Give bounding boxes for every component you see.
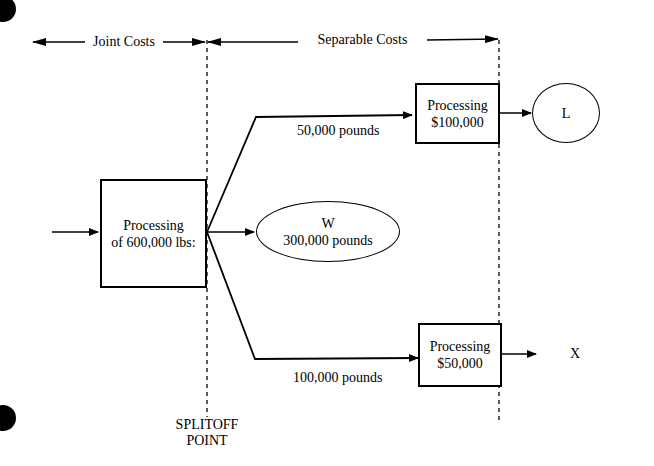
product-x-label: X (570, 346, 580, 362)
joint-processing-box: Processing of 600,000 lbs: (100, 179, 207, 288)
product-l-name: L (562, 105, 571, 122)
l-flow-label: 50,000 pounds (297, 123, 379, 139)
joint-costs-label: Joint Costs (85, 34, 163, 50)
x-processing-box: Processing $50,000 (418, 323, 502, 387)
l-processing-line1: Processing (427, 97, 488, 114)
x-processing-line1: Processing (430, 338, 491, 355)
separable-costs-label: Separable Costs (298, 32, 427, 48)
l-processing-line2: $100,000 (427, 114, 488, 131)
l-processing-box: Processing $100,000 (415, 83, 500, 144)
splitoff-line1: SPLITOFF (170, 417, 244, 433)
product-w-name: W (283, 215, 372, 232)
splitoff-line2: POINT (170, 433, 244, 449)
x-processing-line2: $50,000 (430, 355, 491, 372)
joint-processing-line2: of 600,000 lbs: (111, 234, 195, 251)
product-w-oval: W 300,000 pounds (256, 201, 400, 262)
product-l-oval: L (532, 83, 600, 143)
joint-processing-line1: Processing (111, 217, 195, 234)
x-flow-label: 100,000 pounds (293, 370, 382, 386)
product-w-quantity: 300,000 pounds (283, 232, 372, 249)
splitoff-label: SPLITOFF POINT (170, 417, 244, 449)
